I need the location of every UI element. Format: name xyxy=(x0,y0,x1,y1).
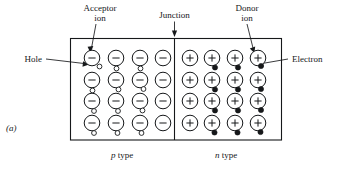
acceptor-ion-leader-line xyxy=(92,24,97,48)
donor-ion-label-line1: Donor xyxy=(236,3,259,13)
n-ion-cell xyxy=(250,93,266,112)
hole-circle-icon xyxy=(90,88,95,93)
device-outline xyxy=(71,39,282,141)
p-ion-cell xyxy=(155,93,171,109)
electron-dot-icon xyxy=(258,129,263,134)
electron-dot-icon xyxy=(235,108,240,113)
electron-dot-icon xyxy=(235,65,240,70)
p-ion-cell xyxy=(84,72,100,93)
acceptor-ion-label-line2: ion xyxy=(94,13,106,23)
electron-dot-icon xyxy=(258,63,263,68)
p-ion-cell xyxy=(108,72,124,92)
electron-dot-icon xyxy=(235,130,240,135)
pn-junction-svg: Junction Acceptor ion Donor ion Hole Ele… xyxy=(0,0,348,170)
p-ion-cell xyxy=(108,50,124,71)
electron-dot-icon xyxy=(212,108,217,113)
hole-circle-icon xyxy=(139,131,144,136)
donor-ion-label-line2: ion xyxy=(241,13,253,23)
p-ion-cell xyxy=(132,93,148,113)
donor-ion-leader-line xyxy=(247,24,253,48)
electron-label: Electron xyxy=(292,54,323,64)
n-ion-cell xyxy=(227,50,243,70)
acceptor-ion-label-line1: Acceptor xyxy=(84,3,117,13)
p-ion-cell xyxy=(132,50,148,71)
junction-arrow-icon xyxy=(172,31,177,38)
n-ion-cell xyxy=(204,72,220,92)
p-type-word: type xyxy=(115,150,133,160)
p-ion-cell xyxy=(155,50,171,66)
hole-circle-icon xyxy=(116,87,121,92)
hole-circle-icon xyxy=(115,131,120,136)
n-type-word: type xyxy=(219,150,237,160)
n-ion-cell xyxy=(182,93,198,109)
n-ion-cell xyxy=(182,50,198,66)
hole-circle-icon xyxy=(97,64,102,69)
n-ion-cell xyxy=(182,72,198,88)
n-ion-cell xyxy=(250,115,266,134)
electron-dot-icon xyxy=(258,107,263,112)
electron-dot-icon xyxy=(235,87,240,92)
hole-circle-icon xyxy=(140,108,145,113)
p-ion-cell xyxy=(84,50,102,69)
hole-circle-icon xyxy=(116,109,121,114)
p-type-label: p type xyxy=(110,150,133,160)
p-ion-cell xyxy=(84,93,100,113)
hole-circle-icon xyxy=(92,109,97,114)
p-ion-cell xyxy=(108,115,124,135)
electron-dot-icon xyxy=(212,65,217,70)
electron-dot-icon xyxy=(212,130,217,135)
hole-circle-icon xyxy=(92,131,97,136)
n-ion-cell xyxy=(250,50,266,68)
hole-circle-icon xyxy=(141,87,146,92)
electron-dot-icon xyxy=(212,87,217,92)
electron-dot-icon xyxy=(258,86,263,91)
hole-circle-icon xyxy=(114,66,119,71)
p-ion-cell xyxy=(155,115,171,131)
hole-circle-icon xyxy=(138,66,143,71)
n-type-label: n type xyxy=(215,150,237,160)
p-type-lattice xyxy=(84,50,171,135)
n-ion-cell xyxy=(204,93,220,113)
p-ion-cell xyxy=(108,93,124,113)
hole-label: Hole xyxy=(25,54,43,64)
n-ion-cell xyxy=(204,115,220,135)
hole-leader-line xyxy=(46,59,84,64)
p-ion-cell xyxy=(84,115,100,135)
figure-id-label: (a) xyxy=(6,123,17,133)
n-ion-cell xyxy=(182,115,198,131)
p-ion-cell xyxy=(132,115,148,135)
junction-label: Junction xyxy=(159,10,190,20)
n-ion-cell xyxy=(227,115,243,135)
n-ion-cell xyxy=(204,50,220,70)
pn-junction-figure: Junction Acceptor ion Donor ion Hole Ele… xyxy=(0,0,348,170)
p-ion-cell xyxy=(132,72,148,91)
p-ion-cell xyxy=(155,72,171,88)
n-type-lattice xyxy=(182,50,266,135)
n-ion-cell xyxy=(250,72,266,91)
n-ion-cell xyxy=(227,72,243,92)
n-ion-cell xyxy=(227,93,243,113)
